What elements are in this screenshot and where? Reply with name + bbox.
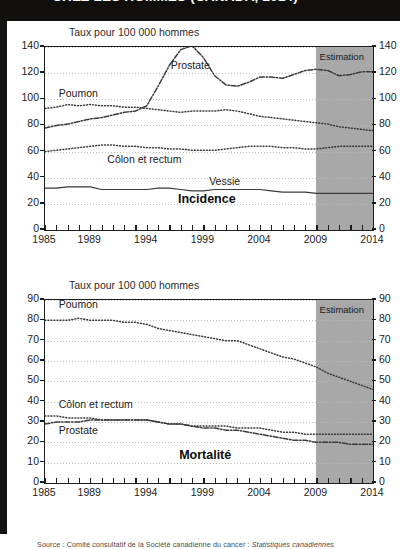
mortalite-xtick-label: 2009 xyxy=(293,486,337,498)
incidence-ytick-mark xyxy=(372,202,376,203)
source-publication: Statistiques canadiennes xyxy=(252,540,334,549)
mortalite-ytick-left: 10 xyxy=(11,455,39,467)
mortalite-label-poumon: Poumon xyxy=(59,298,98,310)
incidence-ytick-mark xyxy=(40,71,44,72)
incidence-ytick-mark xyxy=(40,124,44,125)
mortalite-xtick-label: 1985 xyxy=(22,486,66,498)
mortalite-ytick-right: 10 xyxy=(379,455,400,467)
incidence-ytick-right: 100 xyxy=(379,91,400,103)
incidence-ytick-mark xyxy=(40,202,44,203)
mortalite-ytick-right: 30 xyxy=(379,414,400,426)
incidence-ytick-left: 100 xyxy=(11,91,39,103)
mortalite-ytick-right: 90 xyxy=(379,292,400,304)
mortalite-ytick-mark xyxy=(40,359,44,360)
mortalite-ytick-left: 80 xyxy=(11,312,39,324)
incidence-ytick-mark xyxy=(372,45,376,46)
mortalite-ytick-mark xyxy=(372,359,376,360)
incidence-ytick-left: 120 xyxy=(11,65,39,77)
mortalite-xtick-label: 1994 xyxy=(124,486,168,498)
incidence-ytick-mark xyxy=(40,45,44,46)
incidence-ytick-mark xyxy=(40,98,44,99)
page-body: Taux pour 100 000 hommes 002020404060608… xyxy=(7,21,400,534)
chart-mortalite-ylabel: Taux pour 100 000 hommes xyxy=(69,279,199,291)
mortalite-ytick-right: 20 xyxy=(379,434,400,446)
incidence-ytick-mark xyxy=(372,71,376,72)
incidence-ytick-mark xyxy=(372,150,376,151)
mortalite-ytick-mark xyxy=(40,461,44,462)
incidence-ytick-mark xyxy=(40,228,44,229)
chart-incidence-ylabel: Taux pour 100 000 hommes xyxy=(69,26,199,38)
mortalite-ytick-mark xyxy=(40,339,44,340)
incidence-ytick-mark xyxy=(372,98,376,99)
mortalite-ytick-mark xyxy=(372,481,376,482)
incidence-ytick-left: 20 xyxy=(11,196,39,208)
mortalite-ytick-mark xyxy=(40,380,44,381)
mortalite-ytick-mark xyxy=(40,400,44,401)
incidence-xtick-label: 1994 xyxy=(124,233,168,245)
source-note: Source : Comité consultatif de la Sociét… xyxy=(37,540,334,549)
chart-incidence: Taux pour 100 000 hommes 002020404060608… xyxy=(7,21,400,261)
page-title: CHEZ LES HOMMES (CANADA, 2014) xyxy=(52,0,298,4)
chart-mortalite: Taux pour 100 000 hommes 001010202030304… xyxy=(7,274,400,514)
incidence-label-prostate: Prostate xyxy=(171,59,210,71)
mortalite-xtick-label: 2004 xyxy=(237,486,281,498)
mortalite-ytick-left: 70 xyxy=(11,333,39,345)
mortalite-xtick-label: 2014 xyxy=(350,486,394,498)
mortalite-ytick-mark xyxy=(372,461,376,462)
mortalite-ytick-mark xyxy=(372,380,376,381)
incidence-ytick-right: 20 xyxy=(379,196,400,208)
incidence-ytick-mark xyxy=(40,150,44,151)
incidence-xtick-label: 2014 xyxy=(350,233,394,245)
incidence-title: Incidence xyxy=(178,192,236,206)
mortalite-xtick-label: 1989 xyxy=(67,486,111,498)
incidence-ytick-mark xyxy=(372,228,376,229)
incidence-label-c-lon-et-rectum: Côlon et rectum xyxy=(107,153,181,165)
incidence-label-vessie: Vessie xyxy=(209,175,240,187)
mortalite-label-prostate: Prostate xyxy=(59,424,98,436)
incidence-ytick-left: 140 xyxy=(11,39,39,51)
mortalite-ytick-mark xyxy=(372,319,376,320)
incidence-series-poumon xyxy=(45,105,373,131)
incidence-ytick-right: 60 xyxy=(379,144,400,156)
incidence-ytick-right: 40 xyxy=(379,170,400,182)
incidence-ytick-left: 60 xyxy=(11,144,39,156)
mortalite-ytick-right: 50 xyxy=(379,373,400,385)
incidence-ytick-mark xyxy=(372,124,376,125)
mortalite-ytick-mark xyxy=(40,420,44,421)
mortalite-ytick-mark xyxy=(372,298,376,299)
incidence-ytick-left: 40 xyxy=(11,170,39,182)
mortalite-ytick-left: 40 xyxy=(11,394,39,406)
incidence-ytick-mark xyxy=(40,176,44,177)
mortalite-ytick-mark xyxy=(372,339,376,340)
incidence-xtick-label: 1999 xyxy=(180,233,224,245)
incidence-ytick-right: 80 xyxy=(379,117,400,129)
title-band: CHEZ LES HOMMES (CANADA, 2014) xyxy=(0,0,400,21)
incidence-ytick-mark xyxy=(372,176,376,177)
mortalite-xtick-label: 1999 xyxy=(180,486,224,498)
mortalite-ytick-right: 60 xyxy=(379,353,400,365)
mortalite-ytick-right: 40 xyxy=(379,394,400,406)
incidence-estimation-label: Estimation xyxy=(320,51,364,62)
incidence-ytick-right: 120 xyxy=(379,65,400,77)
incidence-xtick-label: 1985 xyxy=(22,233,66,245)
mortalite-ytick-mark xyxy=(372,400,376,401)
mortalite-ytick-left: 30 xyxy=(11,414,39,426)
mortalite-ytick-mark xyxy=(372,420,376,421)
mortalite-ytick-mark xyxy=(40,319,44,320)
mortalite-ytick-left: 20 xyxy=(11,434,39,446)
source-prefix: Source : Comité consultatif de la Sociét… xyxy=(37,540,250,549)
mortalite-ytick-mark xyxy=(40,481,44,482)
mortalite-ytick-mark xyxy=(40,441,44,442)
mortalite-ytick-left: 60 xyxy=(11,353,39,365)
incidence-xtick-label: 2009 xyxy=(293,233,337,245)
mortalite-ytick-mark xyxy=(372,441,376,442)
mortalite-ytick-right: 80 xyxy=(379,312,400,324)
incidence-series-c-lon-et-rectum xyxy=(45,145,373,152)
mortalite-ytick-left: 50 xyxy=(11,373,39,385)
incidence-label-poumon: Poumon xyxy=(59,87,98,99)
mortalite-ytick-mark xyxy=(40,298,44,299)
incidence-xtick-label: 1989 xyxy=(67,233,111,245)
incidence-ytick-left: 80 xyxy=(11,117,39,129)
incidence-ytick-right: 140 xyxy=(379,39,400,51)
incidence-xtick-label: 2004 xyxy=(237,233,281,245)
